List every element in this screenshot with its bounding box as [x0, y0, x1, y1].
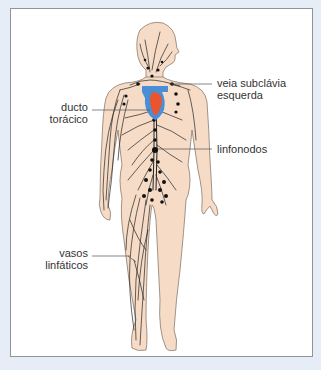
label-subclavian-vein: veia subclávia esquerda: [217, 77, 286, 101]
label-thoracic-line1: ducto: [40, 101, 88, 113]
label-thoracic-duct: ducto torácico: [40, 101, 88, 125]
label-subclavian-line1: veia subclávia: [217, 77, 286, 89]
label-vessels-line2: linfáticos: [30, 259, 88, 271]
label-subclavian-line2: esquerda: [217, 89, 286, 101]
label-thoracic-line2: torácico: [40, 113, 88, 125]
label-vessels-line1: vasos: [30, 247, 88, 259]
human-body-figure: [0, 0, 321, 370]
label-lymph-vessels: vasos linfáticos: [30, 247, 88, 271]
body-silhouette: [99, 22, 218, 350]
label-lymph-nodes-text: linfonodos: [217, 143, 267, 155]
label-lymph-nodes: linfonodos: [217, 143, 267, 155]
